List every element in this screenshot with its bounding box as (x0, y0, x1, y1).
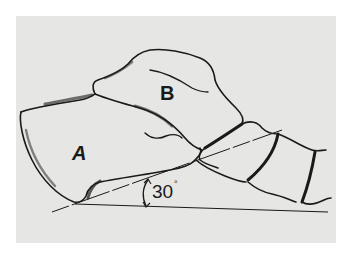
foot-bone-diagram: A B 30 ° (0, 0, 344, 258)
angle-number: 30 (152, 181, 173, 202)
label-b: B (160, 82, 174, 104)
angle-value: 30 (152, 181, 173, 202)
degree-symbol: ° (174, 179, 178, 189)
midfoot-bones (196, 122, 331, 204)
label-a: A (71, 142, 86, 164)
ground-line (75, 204, 328, 212)
angle-arc-arrow (143, 180, 148, 206)
